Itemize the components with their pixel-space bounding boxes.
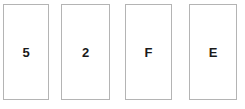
card-row: 5 2 F E bbox=[0, 0, 245, 109]
card-label: 5 bbox=[22, 46, 29, 59]
card-e[interactable]: E bbox=[189, 4, 237, 100]
card-label: E bbox=[209, 46, 218, 59]
card-label: F bbox=[145, 46, 153, 59]
card-5[interactable]: 5 bbox=[3, 4, 49, 100]
card-2[interactable]: 2 bbox=[61, 4, 110, 100]
card-f[interactable]: F bbox=[125, 4, 172, 100]
card-label: 2 bbox=[82, 46, 89, 59]
